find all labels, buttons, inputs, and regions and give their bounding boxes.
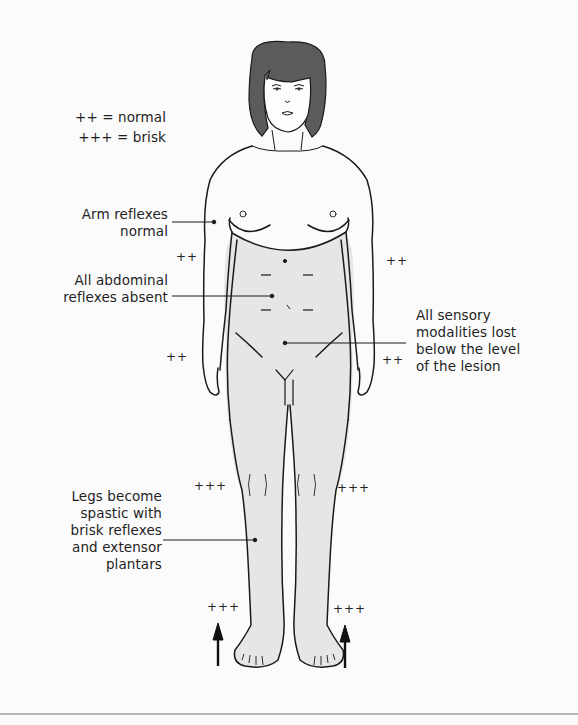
- reflex-mark-right-knee: +++: [337, 481, 370, 495]
- legend-brisk: +++ = brisk: [40, 129, 166, 146]
- reflex-mark-right-forearm: ++: [382, 353, 404, 367]
- reflex-mark-left-forearm: ++: [166, 350, 188, 364]
- label-abdominal-reflexes: All abdominal reflexes absent: [20, 272, 168, 306]
- reflex-mark-left-ankle: +++: [207, 600, 240, 614]
- spinal-lesion-diagram: ++ = normal +++ = brisk Arm reflexes nor…: [0, 0, 578, 725]
- legend-normal: ++ = normal: [40, 109, 166, 126]
- body-outline: [203, 146, 375, 667]
- label-arm-reflexes: Arm reflexes normal: [40, 206, 168, 240]
- reflex-mark-left-knee: +++: [194, 479, 227, 493]
- label-sensory-loss: All sensory modalities lost below the le…: [416, 307, 576, 375]
- reflex-mark-right-ankle: +++: [333, 602, 366, 616]
- reflex-mark-right-upper-arm: ++: [386, 254, 408, 268]
- reflex-mark-left-upper-arm: ++: [176, 250, 198, 264]
- bottom-divider: [0, 713, 578, 715]
- label-legs-spastic: Legs become spastic with brisk reflexes …: [20, 488, 162, 573]
- face: [264, 76, 311, 132]
